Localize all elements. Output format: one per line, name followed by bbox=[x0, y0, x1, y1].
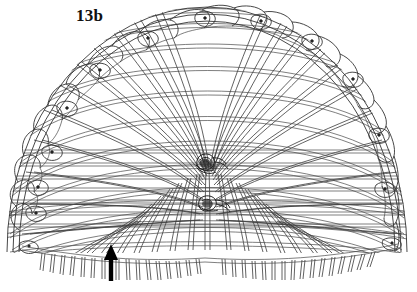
weave-body bbox=[0, 2, 417, 266]
warp-strands bbox=[22, 2, 402, 234]
basketry-dome-drawing bbox=[0, 0, 417, 292]
rim-eyelets bbox=[19, 11, 401, 253]
weft-bands bbox=[10, 9, 404, 267]
figure-13b: 13b bbox=[0, 0, 417, 292]
rim-braid-inner-loops bbox=[32, 26, 385, 218]
braided-rim bbox=[7, 5, 407, 253]
